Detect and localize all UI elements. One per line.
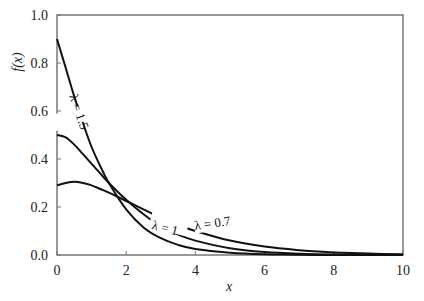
y-tick-label: 0.2 <box>31 200 49 215</box>
chart: 0.00.20.40.60.81.0 0246810 f(x) x λ = 1.… <box>0 0 424 301</box>
y-tick-label: 0.4 <box>31 152 49 167</box>
curve-lambda-1 <box>57 135 403 255</box>
curve-label-lambda-0-7: λ = 0.7 <box>193 213 232 233</box>
y-axis-label: f(x) <box>10 52 26 72</box>
x-tick-label: 10 <box>396 263 410 278</box>
x-tick-label: 8 <box>330 263 337 278</box>
x-axis-label: x <box>225 279 233 294</box>
y-tick-label: 0.8 <box>31 56 49 71</box>
x-tick-label: 6 <box>261 263 268 278</box>
x-tick-label: 4 <box>192 263 199 278</box>
y-tick-label: 0.0 <box>31 248 49 263</box>
y-tick-label: 0.6 <box>31 104 49 119</box>
y-tick-label: 1.0 <box>31 8 49 23</box>
x-tick-label: 2 <box>123 263 130 278</box>
x-tick-label: 0 <box>54 263 61 278</box>
